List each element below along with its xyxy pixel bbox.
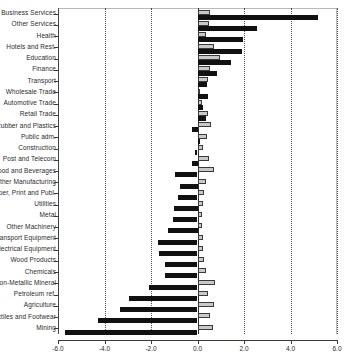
x-tick-label: 2.0: [239, 345, 248, 352]
bar-black: [98, 318, 198, 323]
bar-black: [165, 262, 198, 267]
y-tick: [54, 160, 58, 161]
y-tick: [54, 92, 58, 93]
y-tick: [54, 193, 58, 194]
y-tick: [54, 182, 58, 183]
y-tick: [54, 171, 58, 172]
bar-gray: [198, 291, 208, 296]
bar-black: [198, 26, 257, 31]
category-label-chemicals: Chemicals: [25, 269, 56, 276]
bar-black: [165, 273, 198, 278]
bar-black: [129, 296, 198, 301]
category-label-transport-equipment: Transport Equipment: [0, 235, 56, 242]
x-tick-label: 4.0: [286, 345, 295, 352]
bar-black: [198, 94, 208, 99]
x-tick: [151, 340, 152, 344]
y-tick: [54, 227, 58, 228]
y-tick: [54, 261, 58, 262]
category-label-education: Education: [26, 55, 56, 62]
x-tick: [58, 340, 59, 344]
category-label-business-services: Business Services: [1, 10, 56, 17]
bar-gray: [198, 167, 214, 172]
x-tick: [337, 340, 338, 344]
gridline-4.0: [291, 8, 292, 334]
y-tick: [54, 295, 58, 296]
bar-gray: [198, 302, 214, 307]
category-label-food-and-beverages: Food and Beverages: [0, 168, 56, 175]
gridline-2.0: [244, 8, 245, 334]
y-tick: [54, 137, 58, 138]
x-tick-label: -2.0: [145, 345, 156, 352]
y-tick: [54, 25, 58, 26]
plot-area: [58, 8, 337, 334]
bar-gray: [198, 325, 213, 330]
category-label-textiles-and-footwear: Textiles and Footwear: [0, 314, 56, 321]
bar-black: [198, 105, 203, 110]
category-label-agriculture: Agriculture: [24, 302, 56, 309]
y-tick: [54, 70, 58, 71]
bar-black: [120, 307, 198, 312]
bar-gray: [198, 201, 204, 206]
category-label-finance: Finance: [32, 66, 56, 73]
bar-gray: [198, 156, 210, 161]
bar-gray: [198, 179, 206, 184]
category-label-rubber-and-plastics: Rubber and Plastics: [0, 123, 56, 130]
bar-black: [198, 15, 319, 20]
bar-black: [198, 139, 200, 144]
bar-gray: [198, 268, 206, 273]
bar-gray: [198, 246, 204, 251]
category-label-utilities: Utilities: [34, 201, 56, 208]
bar-black: [174, 206, 197, 211]
y-tick: [54, 216, 58, 217]
gridline-6.0: [337, 8, 338, 334]
y-tick: [54, 328, 58, 329]
bar-gray: [198, 212, 203, 217]
y-tick: [54, 272, 58, 273]
category-label-post-and-telecom: Post and Telecom: [3, 156, 56, 163]
category-label-automotive-trade: Automotive Trade: [3, 100, 56, 107]
category-label-public-adm: Public adm.: [21, 134, 56, 141]
y-tick: [54, 104, 58, 105]
category-label-hotels-and-rest: Hotels and Rest.: [6, 44, 56, 51]
y-tick: [54, 238, 58, 239]
y-tick: [54, 250, 58, 251]
x-tick-label: 0.0: [193, 345, 202, 352]
category-label-paper-print-and-publ: Paper, Print and Publ.: [0, 190, 56, 197]
bar-gray: [198, 145, 204, 150]
y-tick: [54, 36, 58, 37]
category-label-wholesale-trade: Wholesale Trade: [6, 89, 56, 96]
gridline--4.0: [105, 8, 106, 334]
bar-black: [173, 217, 197, 222]
category-label-other-manufacturing: Other Manufacturing: [0, 179, 56, 186]
category-label-transport: Transport: [28, 78, 56, 85]
bar-gray: [198, 223, 203, 228]
x-tick-label: -6.0: [52, 345, 63, 352]
y-tick: [54, 59, 58, 60]
bar-gray: [198, 257, 205, 262]
y-tick: [54, 14, 58, 15]
bar-black: [180, 184, 197, 189]
bar-black: [198, 71, 218, 76]
category-label-other-services: Other Services: [12, 21, 56, 28]
bar-black: [65, 330, 198, 335]
bar-black: [198, 37, 243, 42]
bar-black: [192, 127, 198, 132]
bar-black: [149, 285, 198, 290]
bar-gray: [198, 313, 211, 318]
x-tick-label: -4.0: [99, 345, 110, 352]
bar-gray: [198, 280, 215, 285]
category-label-petroleum-ref: Petroleum ref.: [14, 291, 56, 298]
bar-black: [168, 228, 197, 233]
bar-chart: Business ServicesOther ServicesHealthHot…: [0, 0, 349, 359]
bar-black: [198, 49, 242, 54]
bar-black: [159, 251, 197, 256]
y-tick: [54, 283, 58, 284]
x-tick-label: 6.0: [332, 345, 341, 352]
category-label-non-metallic-mineral: Non-Metallic Mineral: [0, 280, 56, 287]
y-tick: [54, 317, 58, 318]
bar-black: [192, 161, 198, 166]
bar-black: [198, 60, 232, 65]
y-tick: [54, 115, 58, 116]
bar-black: [198, 82, 207, 87]
bar-black: [195, 150, 197, 155]
